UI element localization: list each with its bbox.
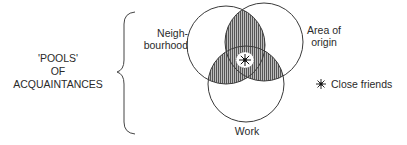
legend-close-friends-text: Close friends: [331, 78, 392, 90]
label-work: Work: [230, 125, 264, 137]
label-area-of-origin: Area of origin: [305, 24, 343, 48]
legend-star-icon: [316, 79, 326, 89]
label-neighbourhood-line-1: Neigh-: [138, 27, 188, 39]
label-neighbourhood: Neigh- bourhood: [138, 27, 188, 51]
label-neighbourhood-line-2: bourhood: [138, 39, 188, 51]
venn-diagram: [0, 0, 407, 145]
label-area-of-origin-line-2: origin: [305, 36, 343, 48]
close-friends-star-icon: [239, 54, 251, 66]
label-area-of-origin-line-1: Area of: [305, 24, 343, 36]
legend-close-friends: Close friends: [331, 78, 392, 90]
curly-brace: [117, 12, 135, 134]
label-work-text: Work: [235, 125, 259, 137]
